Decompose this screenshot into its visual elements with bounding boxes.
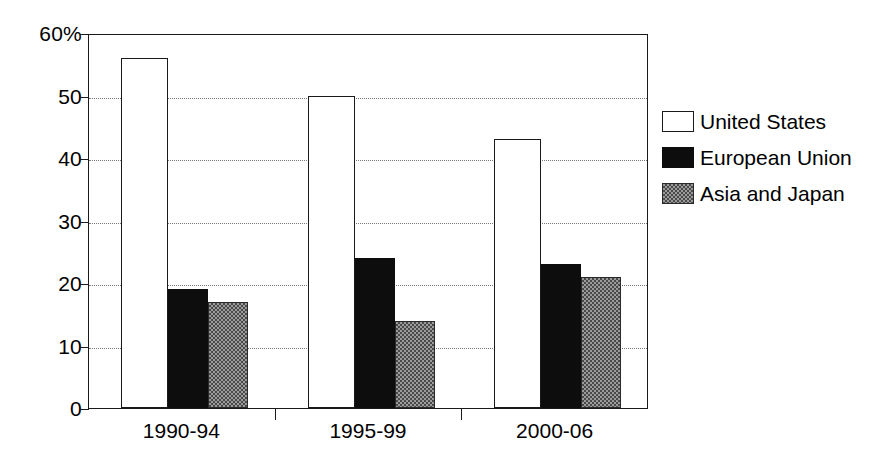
y-axis-tick-mark <box>80 409 89 410</box>
y-axis-tick-label: 30 <box>6 211 82 232</box>
x-axis-tick-mark <box>461 409 462 420</box>
legend-swatch-icon <box>662 147 694 168</box>
x-axis-category-label: 2000-06 <box>461 419 648 443</box>
y-axis-tick-label: 60% <box>6 23 82 44</box>
legend-swatch-icon <box>662 111 694 132</box>
legend-label: United States <box>700 111 826 132</box>
x-axis-tick-mark <box>275 409 276 420</box>
y-axis-tick-label: 50 <box>6 86 82 107</box>
bar-asia-and-japan-1990-94 <box>208 302 248 408</box>
plot-area <box>88 34 648 409</box>
bar-united-states-2000-06 <box>494 139 541 408</box>
y-axis-tick-mark <box>80 97 89 98</box>
legend-item-united-states: United States <box>662 103 892 139</box>
y-axis-tick-mark <box>80 347 89 348</box>
bars-layer <box>89 35 647 408</box>
y-axis-tick-label: 10 <box>6 336 82 357</box>
bar-european-union-1995-99 <box>355 258 395 408</box>
bar-european-union-1990-94 <box>168 289 208 408</box>
y-axis-tick-mark <box>80 222 89 223</box>
bar-united-states-1990-94 <box>121 58 168 408</box>
bar-united-states-1995-99 <box>308 96 355 409</box>
bar-chart: 0102030405060% United StatesEuropean Uni… <box>0 0 896 461</box>
y-axis: 0102030405060% <box>0 0 82 461</box>
legend-item-european-union: European Union <box>662 139 892 175</box>
y-axis-tick-mark <box>80 284 89 285</box>
bar-european-union-2000-06 <box>541 264 581 408</box>
x-axis-category-label: 1990-94 <box>88 419 275 443</box>
x-axis-category-label: 1995-99 <box>275 419 462 443</box>
bar-asia-and-japan-2000-06 <box>581 277 621 408</box>
legend-swatch-icon <box>662 183 694 204</box>
legend-item-asia-and-japan: Asia and Japan <box>662 175 892 211</box>
y-axis-tick-label: 20 <box>6 273 82 294</box>
y-axis-tick-label: 40 <box>6 148 82 169</box>
legend: United StatesEuropean UnionAsia and Japa… <box>662 103 892 211</box>
legend-label: European Union <box>700 147 852 168</box>
bar-asia-and-japan-1995-99 <box>395 321 435 409</box>
legend-label: Asia and Japan <box>700 183 845 204</box>
y-axis-tick-mark <box>80 159 89 160</box>
y-axis-tick-mark <box>80 34 89 35</box>
y-axis-tick-label: 0 <box>6 398 82 419</box>
